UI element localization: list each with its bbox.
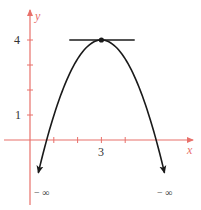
chart: y x 4 1 3 − ∞ − ∞ bbox=[0, 0, 201, 210]
parabola-left-branch bbox=[38, 40, 101, 173]
vertex-point bbox=[99, 37, 104, 42]
neg-infinity-label-right: − ∞ bbox=[157, 187, 172, 198]
parabola-right-branch bbox=[101, 40, 164, 173]
x-tick-label-3: 3 bbox=[98, 145, 104, 159]
x-axis-label: x bbox=[186, 143, 193, 157]
y-tick-label-4: 4 bbox=[14, 33, 20, 47]
neg-infinity-label-left: − ∞ bbox=[34, 187, 49, 198]
y-tick-label-1: 1 bbox=[15, 108, 21, 122]
y-axis-label: y bbox=[34, 9, 41, 23]
